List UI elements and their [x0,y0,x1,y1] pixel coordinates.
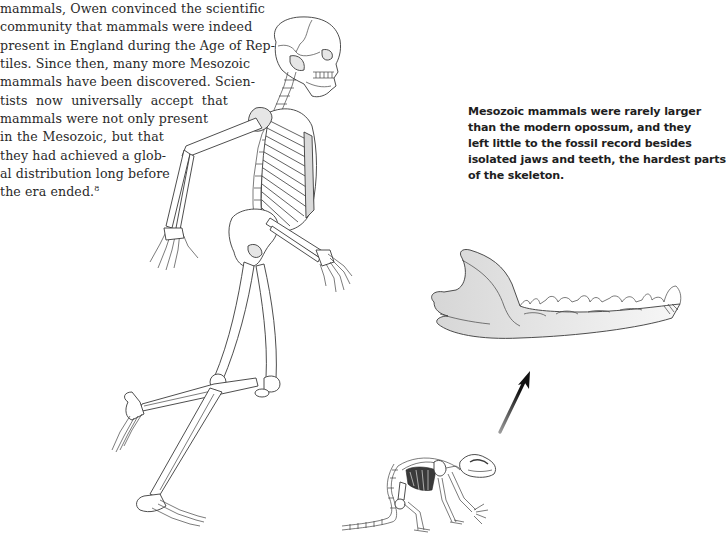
mammal-jaw-illustration [432,249,681,338]
small-mammal-skeleton-illustration [342,455,496,532]
human-skeleton-illustration [112,17,352,526]
right-arm [266,218,352,292]
up-arrow-icon [500,371,530,432]
pelvis [229,209,278,267]
legs [112,262,280,526]
